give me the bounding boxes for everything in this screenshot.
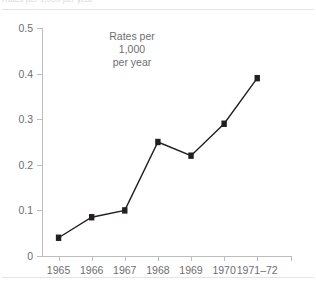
x-tick-label: 1968 [146,264,169,276]
x-tick-label: 1971–72 [237,264,278,276]
series-line [59,78,258,238]
x-tick-label: 1970 [212,264,235,276]
series-markers [56,75,260,241]
data-point-marker [188,152,193,158]
y-tick-label: 0 [27,250,33,262]
data-point-marker [56,235,61,241]
y-tick [37,256,42,257]
y-tick-label: 0.3 [18,113,33,125]
divider-bottom [2,277,314,278]
data-point-marker [89,214,94,220]
x-tick [224,256,225,261]
x-tick [158,256,159,261]
caption-text: Rates per 1,000 per year [2,0,93,4]
annotation-line-1: Rates per [78,30,186,43]
y-tick-label: 0.1 [18,204,33,216]
x-tick-label: 1969 [179,264,202,276]
plot-area: 00.10.20.30.40.5 19651966196719681969197… [42,28,292,256]
data-point-marker [155,139,160,145]
x-tick [257,256,258,261]
x-tick-label: 1967 [113,264,136,276]
y-tick-label: 0.4 [18,68,33,80]
annotation-line-3: per year [78,56,186,69]
x-tick [59,256,60,261]
chart-figure: Rates per 1,000 per year 00.10.20.30.40.… [0,0,316,285]
x-tick [125,256,126,261]
x-tick [92,256,93,261]
y-tick-label: 0.2 [18,159,33,171]
y-tick-label: 0.5 [18,22,33,34]
data-point-marker [221,121,226,127]
x-tick-label: 1965 [47,264,70,276]
plot-annotation: Rates per 1,000 per year [78,30,186,69]
annotation-line-2: 1,000 [78,43,186,56]
x-tick [191,256,192,261]
divider-top [2,9,314,10]
data-point-marker [122,207,127,213]
x-axis-line [42,256,292,257]
x-tick [291,256,292,261]
x-tick-label: 1966 [80,264,103,276]
clipped-caption: Rates per 1,000 per year [0,0,316,7]
data-point-marker [255,75,260,81]
